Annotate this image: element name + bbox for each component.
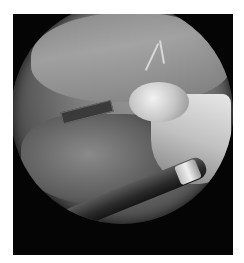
bright-fat-bulge — [129, 82, 189, 122]
image-frame — [13, 14, 233, 255]
endoscope-circle — [13, 14, 233, 224]
upper-peritoneal-surface — [31, 14, 231, 102]
endoscope-view — [13, 14, 233, 255]
